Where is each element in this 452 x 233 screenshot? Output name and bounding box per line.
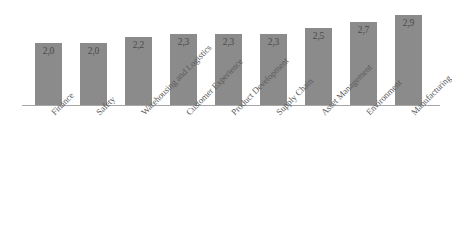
bar-rect[interactable]: 2,2: [125, 37, 152, 105]
bar-group[interactable]: 2,9: [395, 15, 422, 105]
bar-value-label: 2,7: [350, 25, 377, 36]
bar-group[interactable]: 2,0: [35, 43, 62, 105]
bar-value-label: 2,9: [395, 18, 422, 29]
bar-rect[interactable]: 2,0: [80, 43, 107, 105]
bar-group[interactable]: 2,0: [80, 43, 107, 105]
bar-value-label: 2,3: [215, 37, 242, 48]
bar-rect[interactable]: 2,0: [35, 43, 62, 105]
bar-value-label: 2,3: [170, 37, 197, 48]
bar-rect[interactable]: 2,7: [350, 22, 377, 105]
bar-value-label: 2,5: [305, 31, 332, 42]
bar-rect[interactable]: 2,5: [305, 28, 332, 105]
bar-value-label: 2,3: [260, 37, 287, 48]
bar-group[interactable]: 2,5: [305, 28, 332, 105]
bar-value-label: 2,0: [80, 46, 107, 57]
bar-value-label: 2,2: [125, 40, 152, 51]
x-axis-category-labels: Finance Safety Warehousing and Logistics…: [22, 106, 440, 233]
bar-rect[interactable]: 2,9: [395, 15, 422, 105]
plot-area: 2,0 2,0 2,2 2,3 2,3 2,3: [22, 0, 440, 106]
bar-value-label: 2,0: [35, 46, 62, 57]
bar-group[interactable]: 2,7: [350, 22, 377, 105]
bar-group[interactable]: 2,2: [125, 37, 152, 105]
